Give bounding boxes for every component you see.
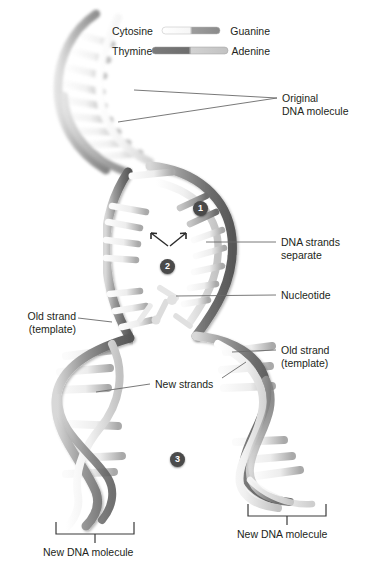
legend-row-thymine-adenine: Thymine Adenine (112, 42, 270, 60)
callout-old-strand-left-line2: (template) (18, 323, 76, 336)
callout-separate-line1: DNA strands (281, 236, 340, 249)
leader-nucleotide (176, 295, 276, 296)
leader-old-strand-left (78, 318, 112, 322)
callout-dna-strands-separate: DNA strands separate (281, 236, 340, 261)
leader-original-lower (118, 98, 277, 122)
base-pair-legend: Cytosine Guanine Thymine Adenine (112, 22, 270, 66)
dna-replication-figure: Cytosine Guanine Thymine Adenine Origina… (0, 0, 370, 569)
callout-separate-line2: separate (281, 249, 340, 262)
step-badge-1: 1 (193, 201, 208, 216)
callout-old-strand-right-line1: Old strand (281, 344, 329, 357)
leader-original-upper (134, 90, 277, 98)
callout-old-strand-right-line2: (template) (281, 357, 329, 370)
callout-old-strand-right: Old strand (template) (281, 344, 329, 369)
legend-label-adenine: Adenine (231, 45, 270, 57)
step-badge-3: 3 (170, 452, 185, 467)
callout-original-dna-line2: DNA molecule (282, 105, 349, 118)
legend-bar-thymine-adenine (152, 47, 228, 54)
callout-new-dna-right: New DNA molecule (237, 528, 327, 541)
callout-old-strand-left: Old strand (template) (18, 310, 76, 335)
replication-fork (106, 166, 233, 338)
legend-label-guanine: Guanine (230, 25, 270, 37)
callout-original-dna: Original DNA molecule (282, 92, 349, 117)
step-badge-2: 2 (160, 259, 175, 274)
callout-original-dna-line1: Original (282, 92, 349, 105)
legend-row-cytosine-guanine: Cytosine Guanine (112, 22, 270, 40)
callout-nucleotide: Nucleotide (281, 289, 331, 302)
dna-illustration (0, 0, 370, 569)
legend-bar-cytosine-guanine (162, 27, 220, 34)
callout-new-dna-left: New DNA molecule (43, 546, 133, 559)
callout-new-strands: New strands (155, 378, 213, 391)
separation-arrows (151, 233, 186, 246)
left-new-dna-helix (56, 338, 130, 528)
callout-old-strand-left-line1: Old strand (18, 310, 76, 323)
